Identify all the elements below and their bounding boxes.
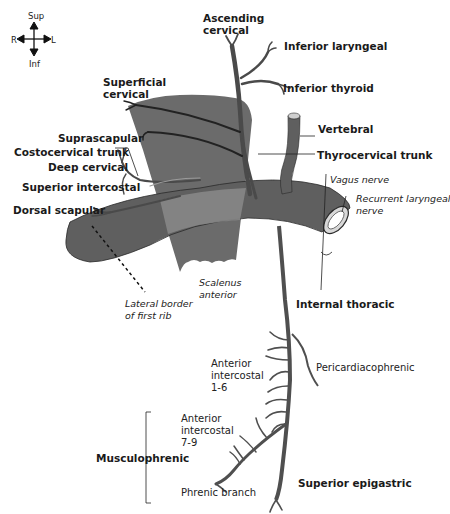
label-anterior-intercostal-7-9: Anterior intercostal 7-9 <box>181 413 234 449</box>
label-suprascapular: Suprascapular <box>58 132 143 144</box>
compass-sup: Sup <box>28 10 44 22</box>
label-phrenic-branch: Phrenic branch <box>181 487 256 499</box>
label-ascending-cervical: Ascending cervical <box>203 12 264 36</box>
label-deep-cervical: Deep cervical <box>48 161 128 173</box>
label-inferior-thyroid: Inferior thyroid <box>283 82 374 94</box>
label-dorsal-scapular: Dorsal scapular <box>13 204 105 216</box>
label-musculophrenic: Musculophrenic <box>96 452 189 464</box>
label-recurrent-laryngeal-nerve: Recurrent laryngeal nerve <box>356 193 450 217</box>
label-lateral-border-first-rib: Lateral border of first rib <box>125 298 193 322</box>
label-superficial-cervical: Superficial cervical <box>103 76 166 100</box>
label-internal-thoracic: Internal thoracic <box>296 298 395 310</box>
label-thyrocervical-trunk: Thyrocervical trunk <box>317 149 433 161</box>
label-vertebral: Vertebral <box>318 123 373 135</box>
label-costocervical-trunk: Costocervical trunk <box>14 146 129 158</box>
compass-r: R <box>11 34 17 46</box>
compass-l: L <box>51 34 56 46</box>
internal-thoracic-artery <box>276 226 290 500</box>
label-vagus-nerve: Vagus nerve <box>330 174 389 186</box>
compass-inf: Inf <box>29 58 40 70</box>
orientation-compass-icon <box>17 22 51 56</box>
label-anterior-intercostal-1-6: Anterior intercostal 1-6 <box>211 358 264 394</box>
pericardiacophrenic-artery <box>292 334 318 386</box>
label-scalenus-anterior: Scalenus anterior <box>199 277 242 301</box>
label-inferior-laryngeal: Inferior laryngeal <box>284 40 387 52</box>
label-pericardiacophrenic: Pericardiacophrenic <box>316 362 415 374</box>
label-superior-epigastric: Superior epigastric <box>298 477 412 489</box>
label-superior-intercostal: Superior intercostal <box>22 181 140 193</box>
